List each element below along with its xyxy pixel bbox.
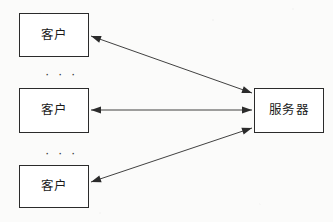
- node-client-middle-label: 客户: [41, 104, 68, 117]
- connector-bottom-arrowhead-start: [91, 175, 102, 182]
- connector-top-arrowhead-start: [91, 36, 102, 43]
- ellipsis-upper-icon: · · ·: [45, 67, 78, 80]
- connector-bottom-line: [91, 128, 252, 182]
- ellipsis-lower-icon: · · ·: [45, 146, 78, 159]
- connector-bottom-arrowhead-end: [241, 128, 252, 135]
- connector-top-line: [91, 36, 252, 93]
- connector-connector-top[interactable]: [91, 36, 252, 93]
- node-client-bottom[interactable]: 客户: [19, 165, 89, 208]
- connector-middle-arrowhead-end: [242, 106, 252, 113]
- connector-top-arrowhead-end: [241, 86, 252, 93]
- connector-middle-arrowhead-start: [91, 106, 101, 113]
- node-client-middle[interactable]: 客户: [19, 88, 89, 133]
- connector-connector-middle[interactable]: [91, 106, 252, 113]
- node-server[interactable]: 服务器: [254, 88, 324, 133]
- diagram-canvas: 客户 客户 客户 服务器 · · · · · ·: [0, 0, 333, 222]
- node-client-top[interactable]: 客户: [19, 13, 89, 57]
- node-server-label: 服务器: [269, 104, 310, 117]
- connector-connector-bottom[interactable]: [91, 128, 252, 182]
- node-client-top-label: 客户: [41, 29, 68, 42]
- node-client-bottom-label: 客户: [41, 180, 68, 193]
